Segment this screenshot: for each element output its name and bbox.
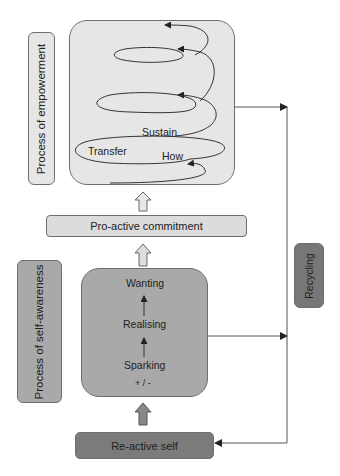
up-arrow-to-empowerment — [135, 192, 151, 211]
sparking-label: Sparking — [124, 359, 165, 371]
self-awareness-process-text: Process of self-awareness — [34, 264, 46, 399]
realising-label: Realising — [123, 318, 166, 330]
empowerment-process-label: Process of empowerment — [28, 32, 55, 185]
reactive-self-box: Re-active self — [75, 432, 214, 459]
recycling-text: Recycling — [303, 253, 315, 299]
recycling-box: Recycling — [294, 243, 324, 308]
empowerment-process-text: Process of empowerment — [36, 43, 48, 173]
self-awareness-process-label: Process of self-awareness — [17, 260, 62, 403]
sustain-label: Sustain — [142, 126, 177, 138]
proactive-commitment-text: Pro-active commitment — [90, 220, 202, 232]
wanting-label: Wanting — [126, 277, 164, 289]
empowerment-box — [69, 20, 235, 185]
up-arrow-to-awareness — [135, 403, 151, 425]
transfer-label: Transfer — [88, 145, 127, 157]
up-arrow-to-commitment — [135, 244, 151, 266]
polarity-label: + / - — [135, 378, 151, 388]
proactive-commitment-box: Pro-active commitment — [46, 215, 247, 237]
how-label: How — [162, 150, 183, 162]
reactive-self-text: Re-active self — [111, 440, 178, 452]
